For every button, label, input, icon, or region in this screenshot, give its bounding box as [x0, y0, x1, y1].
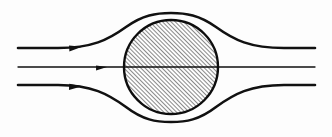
center-flow-arrow-icon [96, 65, 107, 70]
flow-diagram-canvas [0, 0, 332, 137]
arrowhead-group [69, 45, 107, 89]
flow-diagram-figure: Streamline flow past a circular body [0, 0, 332, 137]
